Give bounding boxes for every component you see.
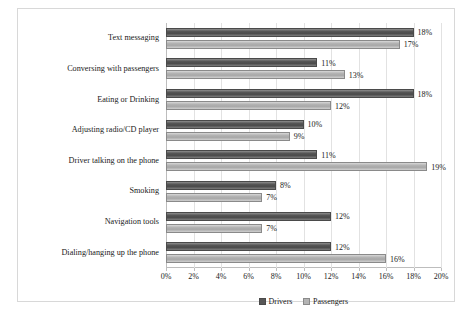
figure: Text messaging18%17%Conversing with pass… [0, 0, 471, 334]
bar-passengers[interactable] [166, 40, 400, 49]
x-tick-mark [331, 268, 332, 271]
bar-group: Text messaging18%17% [166, 23, 441, 54]
x-tick-label: 12% [324, 272, 339, 281]
bar-value-label: 17% [404, 40, 419, 49]
bar-value-label: 13% [349, 70, 364, 79]
bar-line: 12% [166, 101, 441, 110]
x-tick-mark [221, 268, 222, 271]
bar-value-label: 10% [308, 120, 323, 129]
x-tick-label: 6% [243, 272, 254, 281]
bar-drivers[interactable] [166, 89, 414, 98]
x-tick-mark [276, 268, 277, 271]
category-label: Conversing with passengers [67, 64, 166, 73]
bar-line: 13% [166, 70, 441, 79]
bar-line: 19% [166, 162, 441, 171]
category-label: Driver talking on the phone [69, 156, 167, 165]
bar-group: Dialing/hanging up the phone12%16% [166, 237, 441, 268]
bar-value-label: 7% [266, 224, 277, 233]
bar-value-label: 11% [321, 58, 335, 67]
bar-passengers[interactable] [166, 162, 427, 171]
x-tick-mark [166, 268, 167, 271]
bar-line: 12% [166, 242, 441, 251]
chart-frame: Text messaging18%17%Conversing with pass… [17, 8, 455, 302]
bar-line: 18% [166, 28, 441, 37]
x-tick-mark [304, 268, 305, 271]
bar-group: Smoking8%7% [166, 176, 441, 207]
bar-line: 10% [166, 120, 441, 129]
x-tick-mark [194, 268, 195, 271]
bar-line: 18% [166, 89, 441, 98]
bar-value-label: 18% [418, 89, 433, 98]
bar-drivers[interactable] [166, 120, 304, 129]
x-tick-label: 16% [379, 272, 394, 281]
bar-value-label: 19% [431, 162, 446, 171]
bar-value-label: 8% [280, 181, 291, 190]
x-tick-mark [249, 268, 250, 271]
bar-line: 7% [166, 193, 441, 202]
x-tick-label: 20% [434, 272, 449, 281]
bar-passengers[interactable] [166, 193, 262, 202]
bar-drivers[interactable] [166, 150, 317, 159]
bar-value-label: 12% [335, 212, 350, 221]
x-tick-label: 8% [271, 272, 282, 281]
x-tick-label: 18% [406, 272, 421, 281]
bar-drivers[interactable] [166, 242, 331, 251]
x-tick-label: 10% [296, 272, 311, 281]
bar-drivers[interactable] [166, 58, 317, 67]
bar-group: Conversing with passengers11%13% [166, 54, 441, 85]
bar-line: 9% [166, 132, 441, 141]
category-label: Smoking [129, 187, 166, 196]
bar-line: 11% [166, 150, 441, 159]
bar-passengers[interactable] [166, 254, 386, 263]
bar-passengers[interactable] [166, 101, 331, 110]
bar-group: Eating or Drinking18%12% [166, 84, 441, 115]
bar-line: 12% [166, 212, 441, 221]
bar-line: 8% [166, 181, 441, 190]
bar-passengers[interactable] [166, 132, 290, 141]
bar-value-label: 9% [294, 132, 305, 141]
plot-area: Text messaging18%17%Conversing with pass… [166, 23, 441, 268]
bar-value-label: 7% [266, 193, 277, 202]
bar-passengers[interactable] [166, 224, 262, 233]
legend-item-drivers[interactable]: Drivers [259, 297, 293, 306]
legend-swatch-icon [303, 298, 310, 305]
x-tick-label: 14% [351, 272, 366, 281]
bar-value-label: 18% [418, 28, 433, 37]
bar-line: 17% [166, 40, 441, 49]
x-tick-label: 4% [216, 272, 227, 281]
legend-label: Drivers [268, 297, 292, 306]
bar-line: 16% [166, 254, 441, 263]
chart-legend: Drivers Passengers [166, 297, 441, 306]
bar-value-label: 16% [390, 254, 405, 263]
bar-value-label: 11% [321, 150, 335, 159]
category-label: Text messaging [108, 34, 166, 43]
x-tick-mark [441, 268, 442, 271]
legend-swatch-icon [259, 298, 266, 305]
bar-value-label: 12% [335, 242, 350, 251]
x-tick-label: 0% [161, 272, 172, 281]
bar-line: 11% [166, 58, 441, 67]
bar-drivers[interactable] [166, 212, 331, 221]
category-label: Adjusting radio/CD player [72, 126, 166, 135]
x-tick-mark [359, 268, 360, 271]
bar-group: Driver talking on the phone11%19% [166, 146, 441, 177]
bar-passengers[interactable] [166, 70, 345, 79]
x-tick-mark [414, 268, 415, 271]
x-tick-label: 2% [188, 272, 199, 281]
bar-group: Adjusting radio/CD player10%9% [166, 115, 441, 146]
legend-item-passengers[interactable]: Passengers [303, 297, 348, 306]
legend-label: Passengers [313, 297, 348, 306]
x-tick-mark [386, 268, 387, 271]
bar-value-label: 12% [335, 101, 350, 110]
bar-drivers[interactable] [166, 181, 276, 190]
category-label: Navigation tools [105, 218, 166, 227]
x-axis: 0%2%4%6%8%10%12%14%16%18%20% [166, 268, 441, 284]
bar-drivers[interactable] [166, 28, 414, 37]
category-label: Dialing/hanging up the phone [61, 248, 166, 257]
bar-line: 7% [166, 224, 441, 233]
bar-group: Navigation tools12%7% [166, 207, 441, 238]
gridline [441, 23, 442, 268]
category-label: Eating or Drinking [97, 95, 166, 104]
